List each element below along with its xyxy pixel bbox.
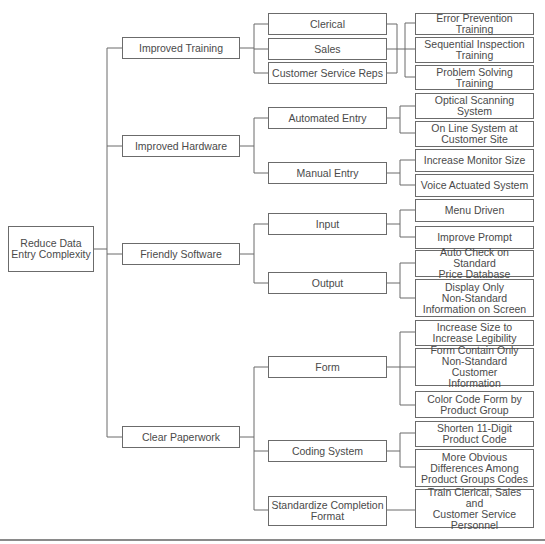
node-increase-size-legibility: Increase Size to Increase Legibility (415, 320, 534, 346)
root-node: Reduce Data Entry Complexity (8, 226, 94, 272)
node-online-system-customer-site: On Line System at Customer Site (415, 121, 534, 147)
node-train-clerical-sales: Train Clerical, Sales and Customer Servi… (415, 489, 534, 528)
node-coding-system: Coding System (268, 440, 387, 462)
node-output: Output (268, 272, 387, 294)
node-customer-service-reps: Customer Service Reps (268, 62, 387, 84)
node-auto-check-price-database: Auto Check on Standard Price Database (415, 250, 534, 277)
node-clear-paperwork: Clear Paperwork (122, 426, 240, 448)
node-problem-solving-training: Problem Solving Training (415, 65, 534, 90)
node-more-obvious-differences: More Obvious Differences Among Product G… (415, 449, 534, 487)
node-menu-driven: Menu Driven (415, 199, 534, 222)
node-manual-entry: Manual Entry (268, 162, 387, 184)
node-voice-actuated-system: Voice Actuated System (415, 174, 534, 197)
node-improved-training: Improved Training (122, 37, 240, 59)
node-input: Input (268, 213, 387, 235)
node-increase-monitor-size: Increase Monitor Size (415, 149, 534, 172)
bottom-rule (0, 539, 545, 541)
node-sequential-inspection-training: Sequential Inspection Training (415, 37, 534, 63)
node-automated-entry: Automated Entry (268, 107, 387, 129)
node-clerical: Clerical (268, 13, 387, 35)
node-shorten-product-code: Shorten 11-Digit Product Code (415, 421, 534, 447)
node-display-only-non-standard: Display Only Non-Standard Information on… (415, 279, 534, 317)
node-improved-hardware: Improved Hardware (122, 135, 240, 157)
node-form-contain-only: Form Contain Only Non-Standard Customer … (415, 348, 534, 386)
node-sales: Sales (268, 38, 387, 60)
node-friendly-software: Friendly Software (122, 243, 240, 265)
node-error-prevention-training: Error Prevention Training (415, 13, 534, 35)
node-form: Form (268, 356, 387, 378)
node-standardize-completion-format: Standardize Completion Format (268, 496, 387, 526)
node-optical-scanning-system: Optical Scanning System (415, 93, 534, 119)
node-color-code-form: Color Code Form by Product Group (415, 391, 534, 418)
